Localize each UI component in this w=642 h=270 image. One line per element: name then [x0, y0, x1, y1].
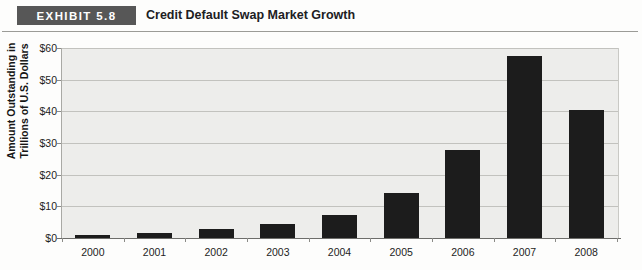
x-axis-tick-label: 2005	[389, 246, 412, 258]
x-axis-tick-mark	[185, 238, 186, 242]
exhibit-figure: EXHIBIT 5.8 Credit Default Swap Market G…	[0, 0, 642, 270]
x-axis-tick-mark	[617, 238, 618, 242]
x-axis-tick-mark	[247, 238, 248, 242]
bar	[322, 215, 357, 238]
bar	[199, 229, 234, 238]
y-axis-tick-label: $10	[5, 200, 57, 212]
x-axis-tick-label: 2000	[81, 246, 104, 258]
x-axis-tick-mark	[494, 238, 495, 242]
x-axis-tick-label: 2006	[451, 246, 474, 258]
header-divider	[2, 31, 638, 32]
y-axis-tick-mark	[57, 111, 61, 112]
y-axis-tick-label: $60	[5, 42, 57, 54]
bar	[445, 150, 480, 238]
y-axis-tick-label: $30	[5, 137, 57, 149]
y-axis-tick-mark	[57, 48, 61, 49]
y-axis-tick-mark	[57, 175, 61, 176]
x-axis-tick-label: 2002	[204, 246, 227, 258]
x-axis-line	[57, 238, 621, 239]
y-axis-tick-label: $0	[5, 232, 57, 244]
y-axis-tick-labels: $0$10$20$30$40$50$60	[0, 0, 57, 270]
bar	[260, 224, 295, 238]
y-axis-tick-mark	[57, 143, 61, 144]
x-axis-tick-mark	[432, 238, 433, 242]
bar-series	[62, 48, 617, 238]
bar	[75, 235, 110, 238]
x-axis-tick-label: 2003	[266, 246, 289, 258]
x-axis-tick-mark	[555, 238, 556, 242]
x-axis-tick-label: 2007	[513, 246, 536, 258]
bar	[137, 233, 172, 238]
x-axis-tick-label: 2008	[574, 246, 597, 258]
exhibit-header: EXHIBIT 5.8 Credit Default Swap Market G…	[0, 0, 642, 30]
bar	[569, 110, 604, 238]
exhibit-title: Credit Default Swap Market Growth	[146, 8, 355, 22]
x-axis-tick-mark	[370, 238, 371, 242]
bar	[384, 193, 419, 238]
x-axis-tick-mark	[62, 238, 63, 242]
x-axis-tick-label: 2004	[328, 246, 351, 258]
y-axis-tick-label: $40	[5, 105, 57, 117]
x-axis-tick-mark	[124, 238, 125, 242]
bar	[507, 56, 542, 238]
y-axis-tick-label: $50	[5, 74, 57, 86]
y-axis-tick-mark	[57, 80, 61, 81]
x-axis-tick-mark	[309, 238, 310, 242]
y-axis-tick-mark	[57, 206, 61, 207]
x-axis-tick-label: 2001	[143, 246, 166, 258]
y-axis-tick-label: $20	[5, 169, 57, 181]
